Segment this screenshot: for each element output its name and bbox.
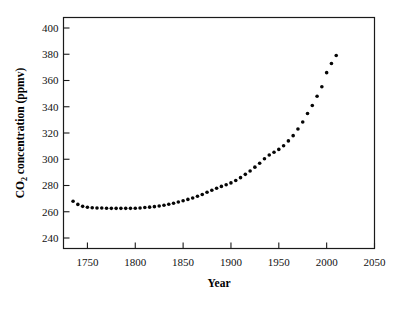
y-tick-label: 280 — [42, 179, 59, 191]
y-axis-title-trail: concentration (ppmv) — [14, 68, 27, 177]
data-point — [162, 203, 166, 207]
data-point-series — [71, 54, 338, 210]
data-point — [277, 148, 281, 152]
y-tick-label: 320 — [42, 127, 59, 139]
data-point — [177, 200, 181, 204]
data-point — [248, 169, 252, 173]
data-point — [181, 199, 185, 203]
data-point — [81, 205, 85, 209]
x-tick-label: 1850 — [172, 256, 195, 268]
y-axis-title: CO2 concentration (ppmv) — [14, 68, 29, 199]
data-point — [167, 202, 171, 206]
x-tick-label: 1950 — [268, 256, 291, 268]
data-point — [282, 144, 286, 148]
data-point — [196, 194, 200, 198]
data-point — [287, 139, 291, 143]
y-tick-label: 380 — [42, 48, 59, 60]
data-point — [124, 207, 128, 211]
data-point — [153, 205, 157, 209]
x-tick-label: 2050 — [364, 256, 387, 268]
data-point — [291, 134, 295, 138]
chart-figure: 240260280300320340360380400 175018001850… — [0, 0, 404, 309]
x-tick-label: 1750 — [76, 256, 99, 268]
data-point — [157, 204, 161, 208]
data-point — [86, 205, 90, 209]
data-point — [114, 207, 118, 211]
data-point — [244, 173, 248, 177]
data-point — [119, 207, 123, 211]
y-axis-ticks: 240260280300320340360380400 — [42, 22, 70, 244]
data-point — [220, 185, 224, 189]
data-point — [311, 104, 315, 108]
svg-text:CO2 concentration (ppmv): CO2 concentration (ppmv) — [14, 68, 29, 199]
data-point — [148, 205, 152, 209]
data-point — [239, 176, 243, 180]
data-point — [229, 181, 233, 185]
data-point — [172, 201, 176, 205]
data-point — [325, 71, 329, 75]
data-point — [143, 206, 147, 210]
data-point — [200, 193, 204, 197]
data-point — [272, 150, 276, 154]
data-point — [186, 198, 190, 202]
data-point — [330, 62, 334, 66]
data-point — [95, 206, 99, 210]
data-point — [224, 183, 228, 187]
y-tick-label: 360 — [42, 74, 59, 86]
data-point — [133, 206, 137, 210]
data-point — [296, 127, 300, 131]
x-tick-label: 1800 — [124, 256, 147, 268]
data-point — [138, 206, 142, 210]
plot-frame — [64, 18, 375, 249]
x-axis-title: Year — [208, 277, 231, 289]
x-tick-label: 1900 — [220, 256, 243, 268]
data-point — [267, 153, 271, 157]
data-point — [301, 120, 305, 124]
data-point — [105, 206, 109, 210]
data-point — [334, 54, 338, 58]
data-point — [315, 94, 319, 98]
data-point — [191, 196, 195, 200]
x-axis-title-label: Year — [208, 277, 231, 289]
data-point — [215, 186, 219, 190]
data-point — [210, 188, 214, 192]
data-point — [90, 206, 94, 210]
y-tick-label: 340 — [42, 101, 59, 113]
data-point — [71, 199, 75, 203]
y-tick-label: 260 — [42, 206, 59, 218]
data-point — [110, 207, 114, 211]
x-axis-ticks: 1750180018501900195020002050 — [76, 243, 386, 268]
plot-area-border — [64, 18, 375, 249]
data-point — [234, 179, 238, 183]
co2-concentration-scatter-chart: 240260280300320340360380400 175018001850… — [0, 0, 404, 309]
y-tick-label: 400 — [42, 22, 59, 34]
data-point — [263, 157, 267, 161]
data-point — [253, 165, 257, 169]
data-point — [205, 191, 209, 195]
data-point — [129, 207, 133, 211]
data-point — [76, 203, 80, 207]
data-point — [306, 112, 310, 116]
data-point — [100, 206, 104, 210]
data-point — [258, 161, 262, 165]
y-axis-title-lead: CO — [14, 181, 26, 198]
y-tick-label: 240 — [42, 232, 59, 244]
data-point — [320, 85, 324, 89]
y-tick-label: 300 — [42, 153, 59, 165]
x-tick-label: 2000 — [316, 256, 339, 268]
